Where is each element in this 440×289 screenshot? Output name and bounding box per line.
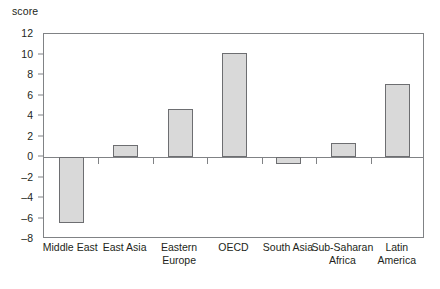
y-tick-label: 12 — [21, 27, 33, 39]
x-tick-mark — [371, 158, 372, 164]
y-tick-label: 8 — [27, 68, 33, 80]
zero-baseline — [44, 157, 423, 158]
bar — [59, 157, 84, 223]
y-tick-label: –6 — [21, 212, 33, 224]
y-tick-label: 0 — [27, 150, 33, 162]
y-tick-label: 6 — [27, 89, 33, 101]
y-tick-label: 2 — [27, 130, 33, 142]
x-tick-label: Latin America — [359, 241, 435, 267]
bar-chart: score 121086420–2–4–6–8 Middle EastEast … — [0, 0, 440, 289]
bar — [276, 157, 301, 164]
y-tick-label: 10 — [21, 48, 33, 60]
y-tick-label: –2 — [21, 171, 33, 183]
x-tick-mark — [316, 158, 317, 164]
y-tick-label: 4 — [27, 109, 33, 121]
bar — [331, 143, 356, 157]
y-axis-title: score — [12, 5, 38, 17]
bar — [222, 53, 247, 157]
plot-inner — [44, 34, 423, 237]
x-tick-mark — [207, 158, 208, 164]
bar — [113, 145, 138, 157]
y-axis-tick-labels: 121086420–2–4–6–8 — [0, 33, 43, 238]
bar — [385, 84, 410, 157]
x-tick-mark — [153, 158, 154, 164]
x-tick-mark — [98, 158, 99, 164]
x-axis-tick-labels: Middle EastEast AsiaEastern EuropeOECDSo… — [43, 241, 424, 289]
bar — [168, 109, 193, 157]
y-tick-label: –4 — [21, 191, 33, 203]
plot-area — [43, 33, 424, 238]
x-tick-mark — [262, 158, 263, 164]
